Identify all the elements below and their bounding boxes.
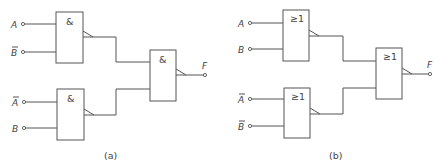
gate-symbol: & xyxy=(159,54,167,65)
input-label-b: B xyxy=(238,45,244,55)
negation-flag-icon xyxy=(402,68,412,74)
input-label-a-bar: A xyxy=(237,95,244,105)
gate-symbol: ≥1 xyxy=(383,51,397,62)
input-label-a-bar: A xyxy=(11,98,18,108)
gate-symbol: ≥1 xyxy=(291,91,305,102)
input-pin-b xyxy=(22,126,25,129)
gate-symbol: ≥1 xyxy=(290,13,304,24)
input-pin-a-bar xyxy=(248,97,251,100)
input-pin-b-bar xyxy=(21,50,24,53)
input-pin-a xyxy=(21,22,24,25)
input-label-a: A xyxy=(10,20,17,30)
logic-diagrams: A B A B & & & F (a) A B xyxy=(0,0,442,167)
gate-symbol: & xyxy=(66,16,74,27)
input-label-a: A xyxy=(237,19,244,29)
input-label-b-bar: B xyxy=(238,122,244,132)
input-pin-a xyxy=(248,21,251,24)
output-pin-f xyxy=(203,73,206,76)
gate-symbol: & xyxy=(67,93,75,104)
output-pin-f xyxy=(428,72,431,75)
negation-flag-icon xyxy=(83,31,93,37)
negation-flag-icon xyxy=(176,69,186,75)
input-label-b: B xyxy=(12,124,18,134)
input-pin-b-bar xyxy=(248,124,251,127)
caption-a: (a) xyxy=(104,150,117,161)
input-pin-a-bar xyxy=(22,100,25,103)
output-label-f: F xyxy=(427,60,433,70)
output-label-f: F xyxy=(202,61,208,71)
negation-flag-icon xyxy=(309,30,319,36)
input-label-b-bar: B xyxy=(11,48,17,58)
negation-flag-icon xyxy=(310,108,320,114)
caption-b: (b) xyxy=(329,150,342,161)
diagram-b: A B A B ≥1 ≥1 ≥1 F (b) xyxy=(237,10,433,161)
input-pin-b xyxy=(248,47,251,50)
negation-flag-icon xyxy=(84,109,94,115)
diagram-a: A B A B & & & F (a) xyxy=(10,12,208,161)
